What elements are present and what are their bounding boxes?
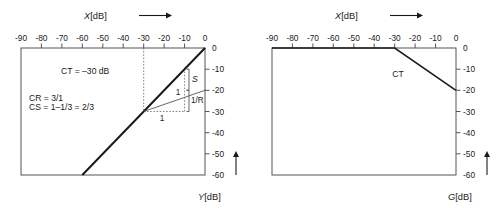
y-axis-unit-right: [dB] (455, 192, 472, 202)
x-tick-label: -30 (389, 33, 401, 43)
x-axis-title-left: X[dB] (83, 11, 107, 21)
y-tick-label: 0 (463, 43, 468, 53)
y-tick-label: -30 (212, 107, 224, 117)
y-tick-marks-left (205, 69, 210, 154)
y-tick-label: -60 (463, 170, 475, 180)
figure-root: X[dB] -90 -80 -70 -60 -50 -40 -30 -20 -1… (0, 0, 502, 215)
x-axis-arrow-right (390, 13, 423, 19)
gain-curve (272, 48, 456, 90)
y-tick-label: -40 (212, 128, 224, 138)
one-over-r-label: 1/R (191, 96, 204, 105)
plot-frame-right (272, 48, 456, 175)
panel-input-output: X[dB] -90 -80 -70 -60 -50 -40 -30 -20 -1… (0, 0, 251, 215)
x-axis-unit-right: [dB] (341, 11, 358, 21)
y-tick-label: 0 (212, 43, 217, 53)
y-tick-label: -20 (212, 85, 224, 95)
y-tick-label: -30 (463, 107, 475, 117)
x-tick-label: -10 (430, 33, 442, 43)
x-tick-label: 0 (454, 33, 459, 43)
y-tick-label: -50 (212, 149, 224, 159)
y-axis-unit-left: [dB] (204, 192, 221, 202)
y-tick-marks-right (456, 69, 461, 154)
x-axis-unit-left: [dB] (90, 11, 107, 21)
x-tick-label: -30 (138, 33, 150, 43)
x-tick-label: -60 (76, 33, 88, 43)
panel-gain: X[dB] -90 -80 -70 -60 -50 -40 -30 -20 -1… (251, 0, 502, 215)
panel-left-svg: X[dB] -90 -80 -70 -60 -50 -40 -30 -20 -1… (0, 0, 251, 215)
panel-right-svg: X[dB] -90 -80 -70 -60 -50 -40 -30 -20 -1… (251, 0, 502, 215)
x-tick-label: 0 (203, 33, 208, 43)
y-axis-title-right: G[dB] (448, 192, 472, 202)
x-tick-label: -80 (286, 33, 298, 43)
y-tick-label: -40 (463, 128, 475, 138)
x-tick-label: -20 (409, 33, 421, 43)
x-tick-label: -50 (348, 33, 360, 43)
x-tick-label: -70 (307, 33, 319, 43)
y-axis-symbol-right: G (448, 192, 455, 202)
x-tick-label: -90 (266, 33, 278, 43)
slope-s-label: S (192, 74, 198, 84)
x-tick-label: -90 (15, 33, 27, 43)
x-axis-arrow-left (139, 13, 172, 19)
knee-rise-label: 1 (176, 88, 181, 97)
y-axis-title-left: Y[dB] (198, 192, 221, 202)
annotation-ct-value: CT = –30 dB (61, 66, 110, 76)
slope-bracket-s (187, 69, 190, 90)
x-tick-label: -60 (327, 33, 339, 43)
y-axis-arrow-right (484, 151, 490, 175)
x-tick-label: -80 (35, 33, 47, 43)
x-tick-label: -40 (368, 33, 380, 43)
x-tick-label: -50 (97, 33, 109, 43)
y-tick-label: -10 (463, 64, 475, 74)
y-tick-label: -60 (212, 170, 224, 180)
x-tick-label: -40 (117, 33, 129, 43)
y-tick-label: -50 (463, 149, 475, 159)
y-axis-arrow-left (233, 151, 239, 175)
y-tick-label: -20 (463, 85, 475, 95)
x-tick-label: -10 (179, 33, 191, 43)
x-tick-label: -70 (56, 33, 68, 43)
x-tick-marks-left (41, 44, 184, 49)
x-axis-title-right: X[dB] (334, 11, 358, 21)
annotation-cs-value: CS = 1–1/3 = 2/3 (29, 102, 94, 112)
x-tick-label: -20 (158, 33, 170, 43)
annotation-ct-label: CT (392, 69, 404, 79)
y-tick-label: -10 (212, 64, 224, 74)
slope-bracket-one-over-r (187, 90, 190, 111)
knee-run-label: 1 (160, 114, 165, 123)
